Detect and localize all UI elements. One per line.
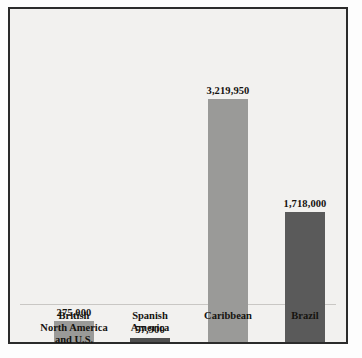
bar-2[interactable] [208,99,248,342]
category-label-2-line-0: Caribbean [204,310,252,322]
category-label-1-line-1: America [131,322,169,334]
plot-area: 275,000 British North America and U.S. 5… [10,9,346,342]
category-label-0-line-2: and U.S. [40,334,107,346]
bar-value-label-2: 3,219,950 [207,85,250,96]
category-label-1-line-0: Spanish [131,310,169,322]
chart-frame: 275,000 British North America and U.S. 5… [8,7,348,344]
category-label-3: Brazil [291,310,318,322]
bar-column-2: 3,219,950 [186,47,270,342]
category-label-3-line-0: Brazil [291,310,318,322]
bar-group-1: 57,900 Spanish America [108,9,192,342]
bar-group-3: 1,718,000 Brazil [263,9,347,342]
chart-figure: 275,000 British North America and U.S. 5… [0,0,362,358]
bar-group-0: 275,000 British North America and U.S. [32,9,116,342]
category-label-0: British North America and U.S. [40,310,107,347]
category-label-0-line-1: North America [40,322,107,334]
bar-column-1: 57,900 [108,47,192,342]
bar-3[interactable] [285,212,325,342]
bar-value-label-3: 1,718,000 [284,198,327,209]
category-label-0-line-0: British [40,310,107,322]
bar-1[interactable] [130,338,170,342]
bar-group-2: 3,219,950 Caribbean [186,9,270,342]
bar-column-0: 275,000 [32,47,116,342]
category-label-1: Spanish America [131,310,169,334]
bar-column-3: 1,718,000 [263,47,347,342]
category-label-2: Caribbean [204,310,252,322]
